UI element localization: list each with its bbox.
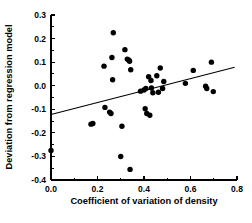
y-axis-ticks [51, 15, 55, 180]
y-tick-label: 0.0 [34, 81, 46, 91]
y-axis-tick-labels: 0.30.20.10.0-0.1-0.2-0.3-0.4 [31, 10, 46, 185]
data-point [209, 59, 214, 64]
data-point [127, 59, 132, 64]
y-tick-label: -0.2 [31, 128, 46, 138]
data-point [48, 148, 53, 153]
data-point [127, 167, 132, 172]
data-point [118, 154, 123, 159]
plot-axes [51, 15, 237, 180]
data-point [154, 73, 159, 78]
scatter-plot: 0.30.20.10.0-0.1-0.2-0.3-0.4 0.00.20.40.… [0, 0, 252, 223]
data-point [183, 81, 188, 86]
data-point [148, 78, 153, 83]
data-point [102, 105, 107, 110]
y-tick-label: 0.3 [34, 10, 46, 20]
y-tick-label: -0.4 [31, 175, 46, 185]
data-point [122, 47, 127, 52]
x-tick-label: 0.6 [185, 184, 197, 194]
y-tick-label: -0.1 [31, 104, 46, 114]
data-point [156, 90, 161, 95]
data-points [48, 30, 216, 172]
data-point [191, 68, 196, 73]
x-tick-label: 0.0 [45, 184, 57, 194]
data-point [142, 106, 147, 111]
data-point [150, 90, 155, 95]
x-axis-tick-labels: 0.00.20.40.60.8 [45, 184, 243, 194]
data-point [158, 65, 163, 70]
y-tick-label: 0.1 [34, 57, 46, 67]
x-tick-label: 0.2 [92, 184, 104, 194]
y-axis-title: Deviation from regression model [4, 24, 14, 169]
y-tick-label: -0.3 [31, 151, 46, 161]
data-point [147, 112, 152, 117]
y-tick-label: 0.2 [34, 34, 46, 44]
data-point [101, 63, 106, 68]
data-point [149, 85, 154, 90]
x-tick-label: 0.8 [231, 184, 243, 194]
data-point [110, 77, 115, 82]
data-point [204, 86, 209, 91]
data-point [161, 79, 166, 84]
data-point [111, 30, 116, 35]
x-axis-title: Coefficient of variation of density [70, 196, 218, 206]
data-point [109, 55, 114, 60]
data-point [143, 86, 148, 91]
data-point [119, 124, 124, 129]
data-point [128, 67, 133, 72]
x-tick-label: 0.4 [138, 184, 150, 194]
data-point [160, 86, 165, 91]
data-point [90, 121, 95, 126]
data-point [211, 89, 216, 94]
data-point [108, 111, 113, 116]
x-axis-ticks [51, 176, 237, 180]
chart-page: 0.30.20.10.0-0.1-0.2-0.3-0.4 0.00.20.40.… [0, 0, 252, 223]
